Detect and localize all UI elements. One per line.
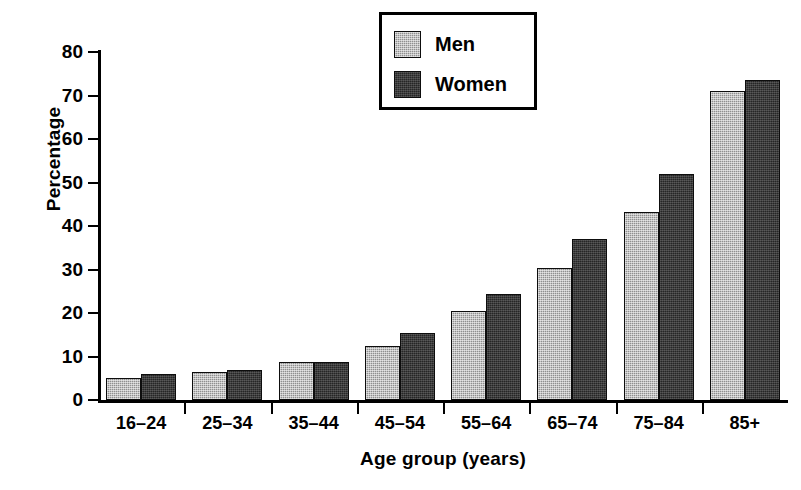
bar-women-35_44: [314, 362, 349, 400]
x-tick-mark: [616, 403, 618, 414]
x-tick-mark: [271, 403, 273, 414]
bar-men-55_64: [451, 311, 486, 400]
bar-chart-figure: Percentage 01020304050607080 16–2425–343…: [0, 0, 801, 490]
x-tick-label: 75–84: [616, 414, 702, 434]
x-tick-mark: [702, 403, 704, 414]
x-tick-label: 55–64: [443, 414, 529, 434]
x-tick-mark: [443, 403, 445, 414]
bar-women-45_54: [400, 333, 435, 400]
bar-men-75_84: [624, 212, 659, 400]
bar-men-25_34: [192, 372, 227, 400]
x-tick-label: 65–74: [529, 414, 615, 434]
bar-men-35_44: [279, 362, 314, 400]
x-tick-label: 35–44: [271, 414, 357, 434]
legend-label-women: Women: [435, 74, 507, 94]
x-tick-mark: [529, 403, 531, 414]
x-tick-mark: [357, 403, 359, 414]
x-tick-label: 16–24: [98, 414, 184, 434]
x-tick-label: 25–34: [184, 414, 270, 434]
bar-women-55_64: [486, 294, 521, 400]
x-tick-label: 85+: [702, 414, 788, 434]
bar-men-45_54: [365, 346, 400, 400]
x-tick-label: 45–54: [357, 414, 443, 434]
bar-women-25_34: [227, 370, 262, 400]
legend-item-women: Women: [394, 64, 534, 104]
bar-women-65_74: [572, 239, 607, 400]
x-axis-title: Age group (years): [98, 448, 788, 470]
bar-men-85+: [710, 91, 745, 400]
legend-swatch-men-icon: [394, 31, 421, 58]
bar-women-85+: [745, 80, 780, 400]
legend-label-men: Men: [435, 34, 475, 54]
legend-item-men: Men: [394, 24, 534, 64]
bar-women-16_24: [141, 374, 176, 400]
bar-men-16_24: [106, 378, 141, 400]
bar-women-75_84: [659, 174, 694, 400]
legend: Men Women: [379, 12, 537, 110]
bar-men-65_74: [537, 268, 572, 400]
x-tick-mark: [184, 403, 186, 414]
legend-swatch-women-icon: [394, 71, 421, 98]
